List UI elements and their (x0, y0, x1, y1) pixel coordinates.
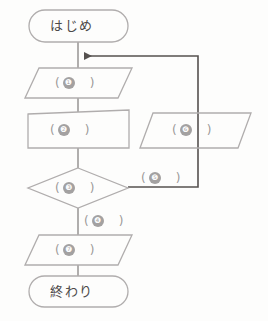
decision3-close-paren: ) (90, 182, 95, 194)
step6-close-paren: ) (207, 124, 212, 136)
node-end-label: 終わり (50, 285, 94, 298)
connector-loop-back (84, 56, 198, 187)
step1-badge: ❶ (63, 77, 75, 89)
step2-close-paren: ) (85, 124, 90, 136)
step1-open-paren: ( (55, 77, 60, 89)
step2-open-paren: ( (50, 124, 55, 136)
step7-close-paren: ) (90, 244, 95, 256)
branch-down-close-paren: ) (119, 215, 124, 227)
edge-label-branch-down: ( ❹ ) (84, 215, 123, 227)
flowchart-canvas: はじめ ( ❶ ) ( ❷ ) ( ❸ ) ( ❹ ) ( ❺ ) ( ❻ ) (0, 0, 268, 321)
step1-close-paren: ) (90, 77, 95, 89)
flowchart-drawing (0, 0, 268, 321)
node-step6-label: ( ❻ ) (172, 124, 211, 136)
step2-badge: ❷ (58, 124, 70, 136)
node-step1-label: ( ❶ ) (55, 77, 94, 89)
branch-down-open-paren: ( (84, 215, 89, 227)
branch-right-close-paren: ) (176, 172, 181, 184)
branch-right-badge: ❺ (149, 172, 161, 184)
decision3-open-paren: ( (55, 182, 60, 194)
decision3-badge: ❸ (63, 182, 75, 194)
step6-open-paren: ( (172, 124, 177, 136)
node-step7-label: ( ❼ ) (55, 244, 94, 256)
step7-badge: ❼ (63, 244, 75, 256)
edge-label-branch-right: ( ❺ ) (141, 172, 180, 184)
node-start-label: はじめ (50, 19, 94, 32)
branch-right-open-paren: ( (141, 172, 146, 184)
node-decision3-label: ( ❸ ) (55, 182, 94, 194)
step7-open-paren: ( (55, 244, 60, 256)
branch-down-badge: ❹ (92, 215, 104, 227)
node-step2-label: ( ❷ ) (50, 124, 89, 136)
step6-badge: ❻ (180, 124, 192, 136)
